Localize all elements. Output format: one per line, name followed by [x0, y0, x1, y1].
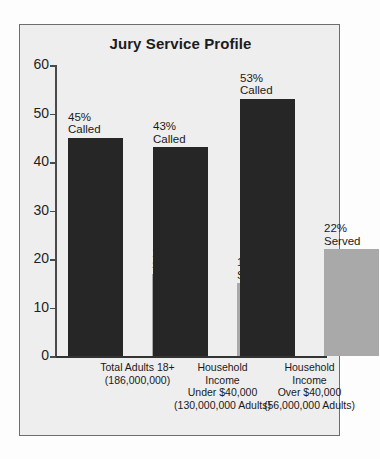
bar-value-label-line: 45% [68, 111, 101, 124]
y-axis-tick-label: 30 [19, 202, 49, 218]
x-axis-category-label-line: Over $40,000 [240, 386, 380, 399]
bar-value-label-line: 53% [240, 72, 273, 85]
bar-value-label: 53%Called [240, 72, 273, 97]
bar-called-group-1: 45%Called [68, 138, 123, 356]
y-axis-tick-mark [50, 308, 56, 310]
bar-value-label-line: Called [240, 84, 273, 97]
chart-panel: Jury Service Profile 0102030405060 45%Ca… [19, 24, 340, 436]
y-axis-tick-label: 10 [19, 299, 49, 315]
bar-served-group-3: 22%Served [324, 249, 379, 356]
bar-called-group-3: 53%Called [240, 99, 295, 356]
chart-title: Jury Service Profile [20, 35, 341, 52]
y-axis-tick-label: 0 [19, 347, 49, 363]
y-axis-tick-label: 60 [19, 56, 49, 72]
bar-value-label-line: 43% [153, 120, 186, 133]
y-axis-tick-label: 40 [19, 153, 49, 169]
y-axis-tick-mark [50, 259, 56, 261]
bar-value-label-line: Called [68, 123, 101, 136]
plot-area: 0102030405060 45%Called17%Served43%Calle… [55, 65, 327, 356]
y-axis-tick-mark [50, 211, 56, 213]
x-axis-category-label-line: (56,000,000 Adults) [240, 399, 380, 412]
bar-value-label: 43%Called [153, 120, 186, 145]
bar-value-label-line: Called [153, 133, 186, 146]
y-axis-tick-label: 50 [19, 105, 49, 121]
bar-value-label-line: 22% [324, 222, 360, 235]
y-axis-tick-mark [50, 114, 56, 116]
y-axis-tick-mark [50, 65, 56, 67]
bar-called-group-2: 43%Called [153, 147, 208, 356]
bar-value-label-line: Served [324, 235, 360, 248]
y-axis-tick-mark [50, 356, 56, 358]
y-axis-tick-mark [50, 162, 56, 164]
y-axis-tick-label: 20 [19, 250, 49, 266]
x-axis-category-label-3: HouseholdIncomeOver $40,000(56,000,000 A… [240, 361, 380, 411]
x-axis-category-label-line: Household [240, 361, 380, 374]
x-axis-line [55, 356, 327, 358]
bar-value-label: 22%Served [324, 222, 360, 247]
bar-value-label: 45%Called [68, 111, 101, 136]
x-axis-category-label-line: Income [240, 374, 380, 387]
